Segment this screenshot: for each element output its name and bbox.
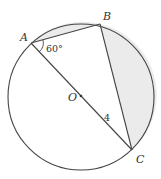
label-b: B — [102, 10, 111, 23]
length-label: 4 — [104, 112, 110, 123]
shaded-segment-bc — [100, 24, 157, 150]
circle-diagram: A B C O 60° 4 — [0, 0, 161, 179]
center-point-o — [80, 95, 83, 98]
label-a: A — [19, 31, 28, 44]
angle-label: 60° — [46, 43, 63, 54]
angle-arc-a — [39, 40, 43, 52]
label-c: C — [136, 153, 145, 166]
label-o: O — [68, 91, 77, 104]
